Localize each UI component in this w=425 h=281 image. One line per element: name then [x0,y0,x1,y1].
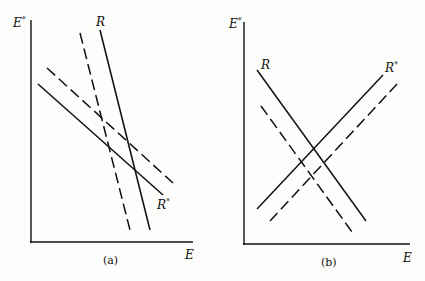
panel-b: E* R R* E (b) [228,16,412,269]
panel-a-curve-Rstar-dashed [47,68,173,183]
panel-b-y-axis-label: E* [228,16,242,31]
panel-a: E* R R* E (a) [12,15,194,267]
diagram-canvas: E* R R* E (a) E* R R* E (b) [0,0,425,281]
panel-a-curve-Rstar-solid [38,84,163,195]
panel-a-curve-Rstar-label: R* [156,197,170,212]
panel-b-curve-Rstar-dashed [270,84,397,221]
panel-a-curve-R-label: R [95,15,105,29]
panel-a-y-axis-label: E* [12,15,26,30]
panel-a-caption: (a) [103,254,118,267]
panel-b-curve-R-label: R [260,58,270,72]
panel-a-curve-R-solid [100,30,150,230]
panel-b-x-axis-label: E [402,251,412,265]
panel-b-curve-R-dashed [261,106,352,232]
panel-b-curve-R-solid [257,70,366,221]
panel-b-curve-Rstar-label: R* [384,60,398,75]
panel-a-x-axis-label: E [184,248,194,262]
panel-a-curve-R-dashed [80,33,130,230]
panel-b-caption: (b) [321,256,337,269]
